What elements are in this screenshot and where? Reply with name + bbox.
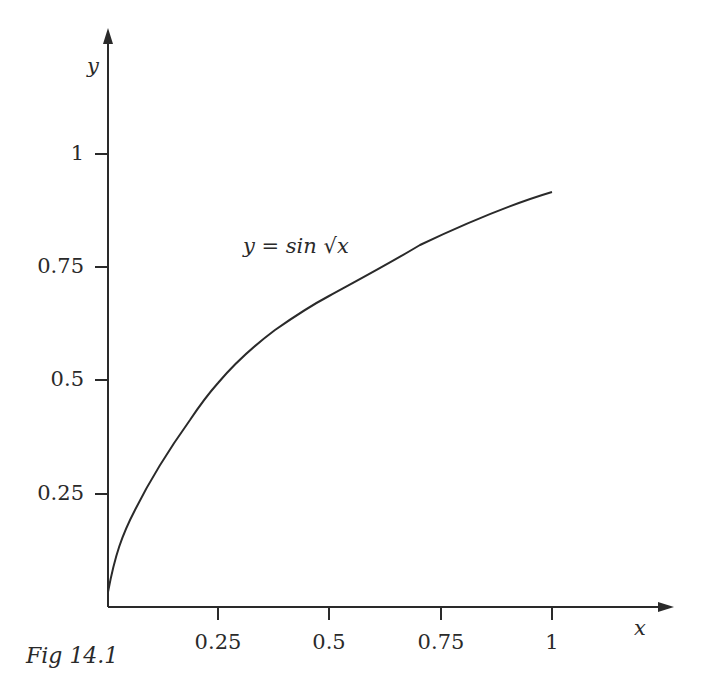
y-tick-label: 0.75 bbox=[14, 254, 84, 278]
y-ticks bbox=[95, 154, 108, 494]
equation-annotation: y = sin √x bbox=[243, 234, 349, 258]
figure-caption: Fig 14.1 bbox=[26, 643, 118, 668]
equation-label: y = sin √x bbox=[243, 234, 349, 258]
x-tick-label: 0.25 bbox=[178, 630, 258, 654]
y-axis-arrow-icon bbox=[103, 28, 113, 44]
y-tick-label: 0.5 bbox=[14, 367, 84, 391]
y-axis-label: y bbox=[87, 54, 99, 78]
x-tick-label: 0.75 bbox=[401, 630, 481, 654]
x-axis-label: x bbox=[634, 616, 646, 640]
y-tick-label: 0.25 bbox=[14, 481, 84, 505]
x-tick-label: 0.5 bbox=[289, 630, 369, 654]
y-tick-label: 1 bbox=[14, 141, 84, 165]
x-ticks bbox=[218, 607, 552, 620]
chart-canvas bbox=[0, 0, 702, 693]
x-axis-arrow-icon bbox=[658, 602, 674, 612]
x-tick-label: 1 bbox=[512, 630, 592, 654]
